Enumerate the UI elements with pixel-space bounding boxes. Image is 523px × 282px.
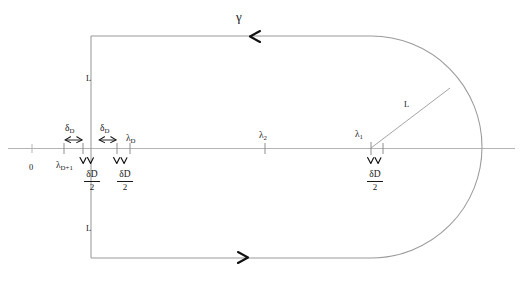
fraction-numerator: δD [79, 170, 105, 181]
height-label-upper: L [86, 74, 91, 83]
spacing-label-delta-right: δD [100, 124, 109, 135]
contour-right-arc [371, 36, 482, 258]
delta-subscript: D [124, 169, 131, 179]
radius-label: L [404, 100, 409, 109]
delta-subscript: D [69, 127, 74, 134]
lambda-subscript: 1 [360, 133, 363, 140]
lambda-subscript: 2 [264, 134, 267, 141]
measure-delta-left [65, 137, 82, 143]
spacing-label-half-delta-2: δD 2 [112, 170, 138, 192]
lambda-subscript: D+1 [61, 164, 73, 171]
fraction-denominator: 2 [79, 182, 105, 192]
eigenvalue-label-lambda-2: λ2 [259, 131, 267, 142]
origin-label: 0 [29, 163, 33, 172]
measure-half-delta-3 [368, 158, 381, 164]
radius-line-L [371, 88, 450, 148]
eigenvalue-label-lambda-D: λD [126, 134, 136, 145]
contour-label-gamma: γ [236, 10, 242, 23]
fraction-numerator: δD [362, 170, 388, 181]
delta-subscript: D [374, 169, 381, 179]
eigenvalue-label-lambda-D-plus-1: λD+1 [56, 161, 73, 172]
contour-diagram: γ 0 L L L λD+1 λD λ2 λ1 δD δD δD 2 δD [0, 0, 523, 282]
height-label-lower: L [86, 224, 91, 233]
lambda-subscript: D [131, 137, 136, 144]
measure-delta-right [99, 137, 116, 143]
spacing-label-delta-left: δD [65, 124, 74, 135]
real-axis-group [8, 142, 515, 155]
contour-gamma-path [91, 36, 482, 258]
delta-subscript: D [104, 127, 109, 134]
delta-subscript: D [91, 169, 98, 179]
fraction-denominator: 2 [112, 182, 138, 192]
spacing-label-half-delta-3: δD 2 [362, 170, 388, 192]
eigenvalue-label-lambda-1: λ1 [355, 130, 363, 141]
fraction-denominator: 2 [362, 182, 388, 192]
fraction-numerator: δD [112, 170, 138, 181]
measure-half-delta-2 [114, 158, 127, 164]
spacing-label-half-delta-1: δD 2 [79, 170, 105, 192]
